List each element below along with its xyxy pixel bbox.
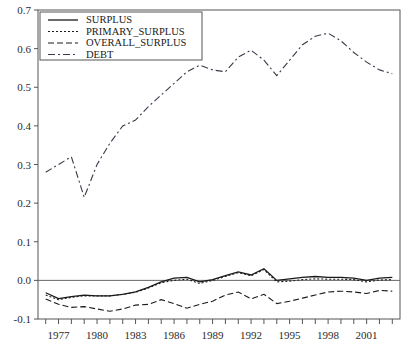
y-axis-tick-label: 0.4 [17,120,31,132]
y-axis-tick-label: 0.6 [17,43,31,55]
series-line-primary-surplus [46,270,393,300]
x-axis-tick-label: 1986 [163,329,186,341]
x-axis-tick-label: 1995 [279,329,302,341]
series-line-surplus [46,269,393,299]
series-line-overall-surplus [46,290,393,311]
legend-label-debt: DEBT [86,49,114,60]
line-chart: 0.70.60.50.40.30.20.10.0-0.1197719801983… [0,0,410,351]
y-axis-tick-label: 0.0 [17,274,31,286]
x-axis-tick-label: 1992 [240,329,262,341]
y-axis-tick-label: 0.7 [17,4,31,16]
legend-label-overall-surplus: OVERALL_SURPLUS [86,37,187,48]
x-axis-tick-label: 1977 [48,329,71,341]
y-axis-tick-label: 0.2 [17,197,31,209]
x-axis-tick-label: 2001 [356,329,378,341]
y-axis-tick-label: 0.5 [17,81,31,93]
y-axis-tick-label: 0.3 [17,159,31,171]
y-axis-tick-label: 0.1 [17,236,31,248]
legend-label-surplus: SURPLUS [86,14,132,25]
x-axis-tick-label: 1980 [86,329,109,341]
x-axis-tick-label: 1983 [125,329,148,341]
x-axis-tick-label: 1989 [202,329,225,341]
x-axis-tick-label: 1998 [317,329,340,341]
legend-label-primary-surplus: PRIMARY_SURPLUS [86,26,185,37]
y-axis-tick-label: -0.1 [14,313,31,325]
chart-container: 0.70.60.50.40.30.20.10.0-0.1197719801983… [0,0,410,351]
